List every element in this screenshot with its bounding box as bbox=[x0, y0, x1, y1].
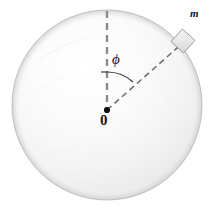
figure-canvas bbox=[0, 0, 212, 216]
mass-label: m bbox=[190, 8, 199, 19]
angle-label-phi: ϕ bbox=[112, 52, 120, 67]
physics-figure: ϕ 0 m bbox=[0, 0, 212, 216]
origin-label: 0 bbox=[100, 113, 108, 128]
